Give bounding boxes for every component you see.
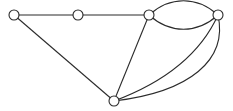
node-n1 — [9, 10, 19, 20]
node-n5 — [109, 96, 119, 106]
nodes — [9, 10, 223, 106]
edge-n4-n5-curve-outer — [114, 15, 220, 101]
node-n2 — [73, 10, 83, 20]
graph-diagram — [0, 0, 233, 111]
edge-n3-n4-arc-above — [149, 1, 218, 15]
node-n3 — [144, 10, 154, 20]
edge-n3-n4-arc-below — [149, 15, 218, 29]
edges — [14, 1, 220, 101]
node-n4 — [213, 10, 223, 20]
edge-n4-n5-curve-inner — [114, 15, 218, 101]
edge-n1-n5 — [14, 15, 114, 101]
